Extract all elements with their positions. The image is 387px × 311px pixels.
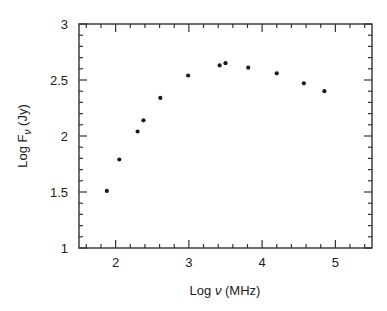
data-point <box>322 89 326 93</box>
data-points <box>105 61 327 193</box>
data-point <box>105 189 109 193</box>
data-point <box>141 118 145 122</box>
y-tick-label: 1 <box>61 241 68 256</box>
x-tick-label: 4 <box>259 255 266 270</box>
data-point <box>218 63 222 67</box>
data-point <box>302 81 306 85</box>
major-ticks <box>79 24 372 248</box>
x-tick-labels: 2345 <box>112 255 339 270</box>
plot-frame <box>79 24 372 248</box>
data-point <box>117 157 121 161</box>
x-tick-label: 2 <box>112 255 119 270</box>
y-tick-label: 3 <box>61 17 68 32</box>
minor-ticks <box>79 24 372 248</box>
x-tick-label: 5 <box>332 255 339 270</box>
data-point <box>136 129 140 133</box>
y-tick-label: 1.5 <box>50 185 68 200</box>
data-point <box>223 61 227 65</box>
y-tick-labels: 11.522.53 <box>50 17 68 256</box>
data-point <box>186 73 190 77</box>
y-axis-label: Log Fν (Jy) <box>15 104 33 168</box>
x-tick-label: 3 <box>185 255 192 270</box>
x-axis-label: Log ν (MHz) <box>190 283 261 298</box>
data-point <box>158 96 162 100</box>
y-tick-label: 2 <box>61 129 68 144</box>
data-point <box>246 66 250 70</box>
spectrum-chart: 2345 11.522.53 Log ν (MHz) Log Fν (Jy) <box>0 0 387 311</box>
y-tick-label: 2.5 <box>50 73 68 88</box>
data-point <box>275 71 279 75</box>
